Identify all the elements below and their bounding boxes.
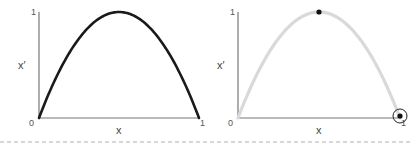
series-line-0 xyxy=(39,12,199,118)
y-axis-label: x′ xyxy=(18,59,26,71)
left-plot: 011xx′ xyxy=(18,7,205,136)
caption-fragment xyxy=(0,139,413,145)
y-tick-label-1: 1 xyxy=(31,7,36,17)
series-line-0 xyxy=(238,12,400,118)
figure: 011xx′ 011xx′ xyxy=(0,0,413,145)
y-tick-label-1: 1 xyxy=(230,7,235,17)
x-axis-label: x xyxy=(316,124,322,136)
x-tick-label-0: 0 xyxy=(29,118,34,128)
right-plot: 011xx′ xyxy=(217,7,407,136)
point-endpoint xyxy=(397,113,402,118)
point-peak xyxy=(316,9,321,14)
y-axis-label: x′ xyxy=(217,59,225,71)
x-tick-label-0: 0 xyxy=(228,118,233,128)
x-tick-label-1: 1 xyxy=(200,118,205,128)
x-axis-label: x xyxy=(116,124,122,136)
